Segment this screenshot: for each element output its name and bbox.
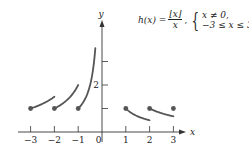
curve-segment	[78, 48, 95, 108]
y-axis-label: y	[97, 9, 104, 19]
x-tick-label: 3	[171, 135, 177, 145]
curve-segment	[126, 109, 150, 121]
closed-point-dot	[171, 106, 176, 111]
condition-2: −3 ≤ x ≤ 3	[202, 20, 249, 30]
closed-point-dot	[28, 106, 33, 111]
x-tick-label: −1	[72, 135, 85, 145]
axes	[18, 20, 186, 142]
formula-separator: ,	[184, 15, 187, 25]
x-axis-label: x	[190, 127, 195, 137]
closed-point-dot	[123, 106, 128, 111]
function-formula: h(x) = ⌊x⌋ x , { x ≠ 0, −3 ≤ x ≤ 3	[138, 9, 249, 30]
formula-denominator: x	[173, 20, 178, 30]
left-brace-icon: {	[192, 10, 200, 30]
closed-point-dot	[147, 106, 152, 111]
x-tick-label: 0	[96, 135, 102, 145]
y-tick-label: 2	[93, 80, 99, 90]
y-axis-arrow-icon	[100, 20, 105, 27]
formula-conditions: { x ≠ 0, −3 ≤ x ≤ 3	[189, 10, 249, 30]
formula-lhs: h(x) =	[138, 15, 166, 25]
curve-segment	[31, 97, 55, 109]
closed-point-dot	[52, 106, 57, 111]
curve-segment	[54, 85, 78, 109]
x-tick-label: 2	[147, 135, 153, 145]
x-tick-label: −2	[48, 135, 61, 145]
x-axis-arrow-icon	[179, 130, 186, 135]
formula-fraction: ⌊x⌋ x	[168, 9, 182, 30]
x-tick-label: 1	[123, 135, 129, 145]
formula-numerator: ⌊x⌋	[168, 9, 182, 20]
curve-segment	[150, 109, 174, 117]
x-tick-label: −3	[24, 135, 38, 145]
closed-point-dot	[76, 106, 81, 111]
condition-1: x ≠ 0,	[202, 10, 249, 20]
